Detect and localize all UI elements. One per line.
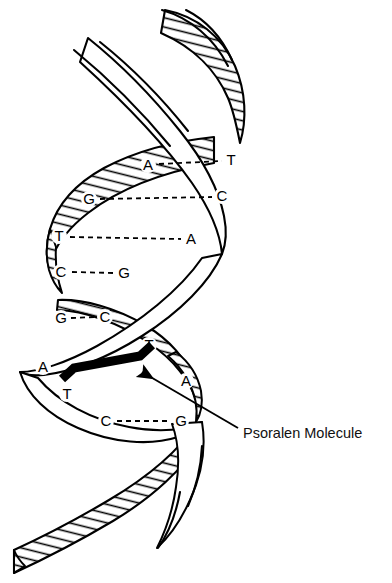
base-letter-left-a: A <box>143 156 153 173</box>
base-letter-right-c: C <box>100 308 111 325</box>
dna-psoralen-figure: ATGCTACGGCTAATCG Psoralen Molecule <box>0 0 392 583</box>
base-letter-right-c: C <box>217 187 228 204</box>
hydrogen-bond <box>71 317 96 318</box>
base-letter-left-c: C <box>56 263 67 280</box>
base-letter-right-g: G <box>118 264 130 281</box>
base-letter-right-t: T <box>226 151 235 168</box>
base-letter-left-t: T <box>54 227 63 244</box>
base-letter-right-g: G <box>175 412 187 429</box>
base-letter-left-a: A <box>38 358 48 375</box>
base-letter-right-a: A <box>181 372 191 389</box>
base-letter-left-g: G <box>55 309 67 326</box>
base-letter-left-g: G <box>83 190 95 207</box>
base-letter-right-a: A <box>186 230 196 247</box>
base-letter-left-c: C <box>101 412 112 429</box>
psoralen-callout-label: Psoralen Molecule <box>243 425 362 441</box>
base-letter-left-t: T <box>62 385 71 402</box>
dna-helix-illustration: ATGCTACGGCTAATCG Psoralen Molecule <box>0 0 392 583</box>
